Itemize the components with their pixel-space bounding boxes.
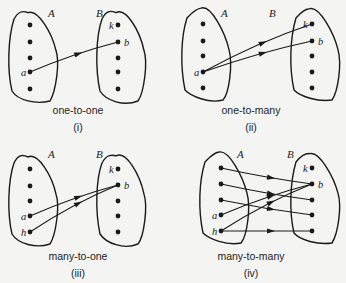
- set-a-outline: [9, 155, 58, 245]
- mapping-arrow: [30, 42, 118, 72]
- set-element-dot: [116, 87, 121, 92]
- mapping-arrow: [221, 184, 312, 215]
- element-label-a: a: [21, 211, 26, 222]
- set-element-dot: [116, 230, 121, 235]
- set-b-label: B: [96, 148, 103, 160]
- set-b-label: B: [96, 7, 103, 19]
- arrowhead-icon: [74, 50, 83, 57]
- set-element-dot: [201, 54, 206, 59]
- set-a-label: A: [47, 7, 55, 19]
- panel-number-i: (i): [58, 121, 98, 133]
- mapping-arrow: [203, 24, 312, 72]
- element-label-k: k: [109, 20, 114, 31]
- element-label-k: k: [303, 163, 308, 174]
- set-a-label: A: [220, 7, 228, 19]
- panel-number-iv: (iv): [231, 267, 271, 279]
- panel-number-ii: (ii): [231, 121, 271, 133]
- panel-i: AaBkb: [9, 7, 146, 103]
- set-element-dot: [310, 70, 315, 75]
- set-element-dot: [116, 70, 121, 75]
- set-element-dot: [28, 184, 33, 189]
- set-a-outline: [200, 152, 249, 244]
- caption-iv: many-to-many: [201, 250, 301, 262]
- set-b-label: B: [269, 7, 276, 19]
- set-element-dot: [116, 214, 121, 219]
- set-element-dot: [28, 199, 33, 204]
- caption-ii: one-to-many: [201, 104, 301, 116]
- mapping-arrow: [221, 184, 312, 231]
- mapping-arrow: [30, 185, 118, 232]
- element-label-a: a: [212, 210, 217, 221]
- set-a-label: A: [47, 148, 55, 160]
- set-element-dot: [28, 87, 33, 92]
- set-element-dot: [116, 23, 121, 28]
- relations-diagram: AaBkbAaBkbAahBkbAahBkb: [0, 0, 346, 283]
- set-element-dot: [310, 54, 315, 59]
- element-label-b: b: [124, 37, 129, 48]
- set-element-dot: [116, 199, 121, 204]
- element-label-b: b: [318, 36, 323, 47]
- arrowhead-icon: [258, 39, 267, 47]
- element-label-k: k: [303, 19, 308, 30]
- panel-number-iii: (iii): [58, 267, 98, 279]
- set-a-label: A: [236, 148, 244, 160]
- element-label-b: b: [318, 179, 323, 190]
- panel-iii: AahBkb: [9, 148, 146, 246]
- caption-iii: many-to-one: [28, 250, 128, 262]
- mapping-arrow: [221, 168, 312, 184]
- arrowhead-icon: [258, 50, 267, 57]
- set-b-outline: [97, 11, 146, 103]
- set-element-dot: [201, 22, 206, 27]
- set-element-dot: [310, 166, 315, 171]
- arrowhead-icon: [267, 228, 275, 233]
- set-a-outline: [182, 8, 231, 101]
- set-element-dot: [28, 40, 33, 45]
- set-a-outline: [9, 11, 58, 102]
- panel-iv: AahBkb: [200, 148, 340, 244]
- set-element-dot: [116, 56, 121, 61]
- set-b-outline: [291, 9, 340, 101]
- element-label-k: k: [109, 164, 114, 175]
- arrowhead-icon: [74, 193, 83, 201]
- element-label-b: b: [124, 180, 129, 191]
- set-element-dot: [28, 23, 33, 28]
- set-b-label: B: [287, 148, 294, 160]
- set-element-dot: [310, 86, 315, 91]
- element-label-h: h: [21, 227, 26, 238]
- set-element-dot: [201, 86, 206, 91]
- panel-ii: AaBkb: [182, 7, 340, 101]
- set-b-outline: [97, 155, 146, 246]
- arrowhead-icon: [266, 198, 275, 206]
- set-element-dot: [201, 39, 206, 44]
- element-label-a: a: [21, 67, 26, 78]
- element-label-a: a: [194, 67, 199, 78]
- set-element-dot: [28, 167, 33, 172]
- mapping-arrow: [221, 200, 312, 215]
- set-element-dot: [116, 167, 121, 172]
- arrowhead-icon: [74, 199, 83, 207]
- mapping-arrow: [30, 185, 118, 216]
- set-element-dot: [28, 56, 33, 61]
- caption-i: one-to-one: [28, 104, 128, 116]
- element-label-h: h: [212, 226, 217, 237]
